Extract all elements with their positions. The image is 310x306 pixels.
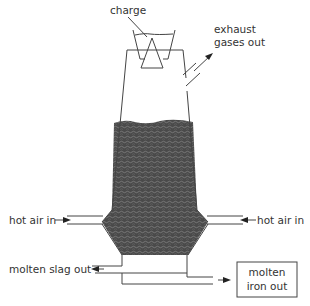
bell-cone <box>141 38 163 68</box>
iron-arrow-icon <box>223 277 231 283</box>
exhaust-label-line1: exhaust <box>214 23 256 35</box>
hot-air-left-arrow-icon <box>63 217 71 223</box>
hot-air-pipe-right <box>207 216 243 224</box>
hot-air-pipe-left <box>67 216 103 224</box>
hot-air-left-label: hot air in <box>9 214 56 226</box>
slag-out-label: molten slag out <box>9 263 91 275</box>
charge-leader-line <box>128 17 147 37</box>
hearth <box>92 255 213 284</box>
furnace-charge-fill <box>102 120 208 255</box>
hot-air-right-label: hot air in <box>257 214 304 226</box>
iron-out-label-line1: molten <box>249 266 286 278</box>
exhaust-label-line2: gases out <box>214 36 265 48</box>
iron-out-label-line2: iron out <box>247 280 288 292</box>
blast-furnace-diagram: charge exhaust gases out hot air in hot … <box>0 0 310 306</box>
hot-air-right-arrow-icon <box>240 217 248 223</box>
slag-arrow-icon <box>91 266 99 272</box>
charge-label: charge <box>110 4 146 16</box>
